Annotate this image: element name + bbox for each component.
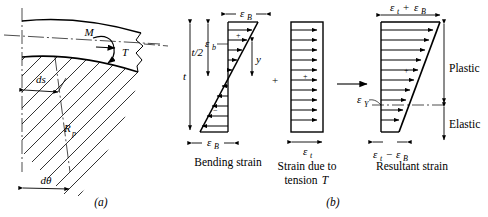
panel-b-caption: (b) bbox=[326, 196, 340, 209]
plastic-radius-label: R bbox=[63, 122, 71, 134]
bending-local-strain-sub: b bbox=[212, 43, 216, 52]
tension-label: T bbox=[122, 46, 129, 58]
tension-caption-line2: tension bbox=[284, 174, 317, 186]
bending-strain-caption: Bending strain bbox=[194, 156, 262, 169]
plastic-radius-sub: p bbox=[71, 129, 76, 138]
tension-strain-label: ε bbox=[303, 145, 308, 157]
plus-operator: + bbox=[272, 74, 278, 86]
tension-caption-line1: Strain due to bbox=[278, 160, 337, 172]
tension-positive-sign: + bbox=[303, 72, 308, 81]
resultant-positive-sign: + bbox=[404, 66, 409, 75]
bending-negative-sign: − bbox=[213, 106, 218, 115]
half-thickness-label: t/2 bbox=[191, 46, 203, 58]
bending-top-strain-label: ε bbox=[240, 7, 245, 19]
resultant-bottom-minus: − bbox=[386, 148, 392, 160]
resultant-top-plus: + bbox=[403, 1, 409, 13]
resultant-strain-caption: Resultant strain bbox=[376, 160, 448, 172]
resultant-bottom-strain2: ε bbox=[396, 148, 401, 160]
dtheta-label: dθ bbox=[41, 174, 53, 186]
plastic-region-label: Plastic bbox=[449, 62, 480, 74]
strain-superposition-figure: M T ds R p dθ (a) + bbox=[0, 0, 488, 217]
bending-local-strain-label: ε bbox=[205, 37, 210, 49]
bending-top-strain-sub: B bbox=[247, 13, 252, 22]
resultant-bottom-strain: ε bbox=[373, 148, 378, 160]
yield-strain-label: ε bbox=[357, 93, 362, 105]
resultant-top-strain2-sub: B bbox=[421, 7, 426, 16]
bending-bottom-strain-sub: B bbox=[214, 142, 219, 151]
resultant-top-strain: ε bbox=[390, 1, 395, 13]
elastic-region-label: Elastic bbox=[449, 118, 480, 130]
y-label: y bbox=[255, 53, 261, 65]
bending-bottom-strain-label: ε bbox=[207, 136, 212, 148]
bending-positive-sign: + bbox=[236, 31, 241, 40]
resultant-top-strain2: ε bbox=[414, 1, 419, 13]
ds-label: ds bbox=[36, 73, 46, 85]
moment-label: M bbox=[83, 26, 94, 38]
panel-a-caption: (a) bbox=[94, 196, 108, 209]
